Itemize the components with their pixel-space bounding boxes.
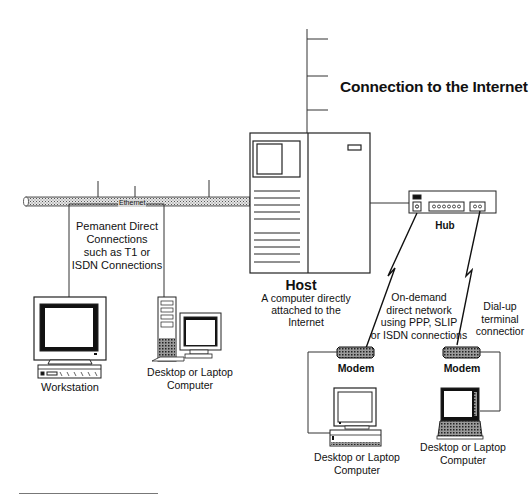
workstation-label: Workstation [35,381,105,394]
host-description: A computer directly attached to the Inte… [256,292,356,328]
modem-left-icon [337,347,374,358]
modem-right-label: Modem [438,362,486,374]
hub-label: Hub [430,220,460,232]
desktop-bottom-icon [330,388,381,446]
on-demand-label: On-demand direct network using PPP, SLIP… [364,291,474,341]
desktop-tower-icon [152,297,221,361]
modem-right-icon [443,347,480,358]
internet-backbone [307,29,328,133]
workstation-icon [34,297,106,378]
dial-up-label: Dial-up terminal connectior [470,300,530,338]
footnote-rule [19,493,158,494]
laptop-icon [437,388,483,439]
host-computer-icon [250,133,370,273]
modem-left-label: Modem [332,362,380,374]
permanent-connections-label: Pemanent Direct Connections such as T1 o… [70,220,164,272]
laptop-bottom-label: Desktop or Laptop Computer [416,441,510,466]
ethernet-label: Ethernet [118,199,146,207]
desktop-left-label: Desktop or Laptop Computer [143,366,237,391]
desktop-bottom-label: Desktop or Laptop Computer [310,451,404,476]
diagram-title: Connection to the Internet [340,78,528,96]
hub-icon [409,191,496,213]
